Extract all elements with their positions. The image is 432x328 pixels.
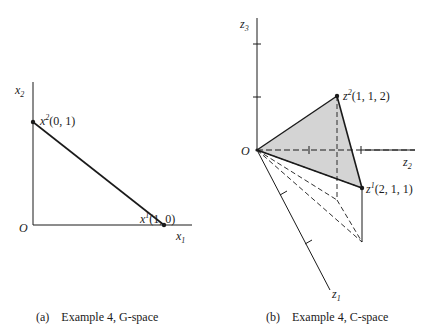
caption-b: (b) Example 4, C-space [266, 311, 388, 323]
figure-canvas [0, 0, 432, 328]
shaded-triangle [257, 96, 362, 188]
point-x2 [31, 120, 35, 124]
projection-dashed [337, 200, 362, 242]
point-z2-label: z2(1, 1, 2) [343, 89, 390, 102]
point-x1-label: x1(1, 0) [140, 212, 175, 225]
point-x2-label: x2(0, 1) [40, 114, 75, 127]
c-space-diagram [253, 18, 415, 290]
z2-axis-label: z2 [403, 156, 412, 171]
point-z2 [335, 94, 339, 98]
z1-axis-label: z1 [332, 288, 341, 303]
point-z1 [360, 186, 364, 190]
origin-label-b: O [241, 145, 250, 157]
origin-point [255, 148, 258, 151]
point-z1-label: z1(2, 1, 1) [366, 182, 413, 195]
origin-label-a: O [19, 222, 28, 234]
g-space-diagram [31, 82, 192, 227]
x1-axis-label: x1 [176, 230, 185, 245]
z1-tick [305, 240, 312, 244]
segment-x2-x1 [33, 122, 164, 225]
z3-axis-label: z3 [240, 18, 249, 33]
z1-tick [280, 191, 287, 195]
x2-axis-label: x2 [15, 84, 24, 99]
caption-a: (a) Example 4, G-space [36, 311, 158, 323]
